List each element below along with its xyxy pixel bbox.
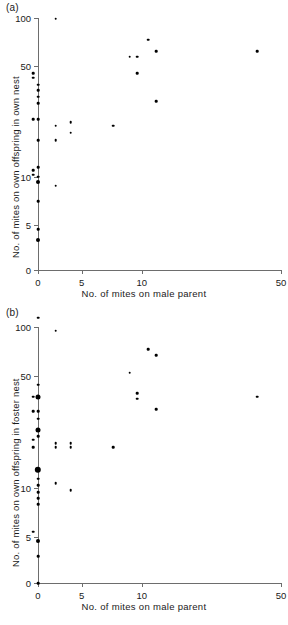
data-point — [147, 348, 150, 351]
panel-b-y-tick-label: 100 — [0, 322, 31, 333]
data-point — [256, 50, 259, 53]
panel-a-y-tick-label: 0 — [0, 265, 31, 276]
data-point — [32, 72, 35, 75]
panel-b-x-tick-label: 0 — [35, 590, 40, 601]
data-point — [54, 184, 57, 187]
panel-a-x-axis-title: No. of mites on male parent — [0, 288, 288, 299]
panel-b-y-tick — [34, 376, 38, 377]
panel-b-y-tick-label: 0 — [0, 578, 31, 589]
panel-a-x-tick — [142, 270, 143, 274]
panel-a-y-tick-label: 5 — [0, 219, 31, 230]
data-point — [36, 180, 40, 184]
data-point — [136, 72, 139, 75]
data-point — [37, 582, 40, 585]
data-point — [128, 55, 131, 58]
data-point — [37, 417, 40, 420]
data-point — [37, 435, 40, 438]
data-point — [37, 410, 40, 413]
panel-a-x-tick — [281, 270, 282, 274]
data-point — [37, 484, 40, 487]
data-point — [155, 408, 158, 411]
data-point — [32, 530, 35, 533]
data-point — [36, 539, 40, 543]
data-point — [37, 383, 40, 386]
data-point — [54, 482, 57, 485]
panel-b-label: (b) — [6, 307, 19, 318]
data-point — [37, 491, 40, 494]
data-point — [69, 121, 72, 124]
data-point — [37, 555, 40, 558]
panel-a-label: (a) — [6, 2, 19, 13]
panel-b-x-axis — [38, 583, 281, 584]
panel-b-y-axis — [38, 327, 39, 583]
data-point — [128, 372, 131, 375]
panel-b-x-tick — [142, 583, 143, 587]
panel-a-plot-area: 051050100051050 — [38, 18, 281, 270]
panel-b: (b) No. of mites on own offspring in fos… — [0, 305, 288, 625]
data-point — [32, 173, 35, 176]
data-point — [54, 17, 57, 20]
data-point — [69, 131, 72, 134]
data-point — [54, 442, 57, 445]
data-point — [136, 55, 139, 58]
panel-b-x-axis-title: No. of mites on male parent — [0, 601, 288, 612]
data-point — [136, 397, 139, 400]
panel-b-y-tick — [34, 488, 38, 489]
data-point — [155, 100, 158, 103]
data-point — [32, 410, 35, 413]
panel-b-x-tick-label: 50 — [276, 590, 287, 601]
data-point — [69, 442, 72, 445]
panel-b-y-tick-label: 10 — [0, 483, 31, 494]
data-point — [37, 95, 40, 98]
data-point — [37, 176, 40, 179]
data-point — [256, 395, 259, 398]
data-point — [36, 427, 41, 432]
data-point — [112, 446, 115, 449]
panel-b-y-tick — [34, 537, 38, 538]
panel-a-y-tick — [34, 18, 38, 19]
data-point — [37, 83, 40, 86]
data-point — [37, 477, 40, 480]
panel-a-x-axis — [38, 270, 281, 271]
data-point — [147, 38, 150, 41]
panel-b-x-tick — [281, 583, 282, 587]
data-point — [37, 503, 40, 506]
data-point — [37, 89, 40, 92]
data-point — [37, 200, 40, 203]
data-point — [37, 228, 40, 231]
panel-b-y-tick — [34, 327, 38, 328]
data-point — [37, 166, 40, 169]
data-point — [32, 118, 35, 121]
panel-b-plot-area: 051050100051050 — [38, 327, 281, 583]
panel-b-x-tick-label: 5 — [79, 590, 84, 601]
panel-a-y-axis — [38, 18, 39, 270]
panel-a-x-tick — [82, 270, 83, 274]
data-point — [36, 238, 40, 242]
data-point — [32, 169, 35, 172]
data-point — [32, 77, 35, 80]
panel-b-x-tick-label: 10 — [136, 590, 147, 601]
data-point — [54, 446, 57, 449]
panel-b-x-tick — [82, 583, 83, 587]
panel-a-y-tick — [34, 225, 38, 226]
data-point — [32, 438, 35, 441]
panel-a-y-tick-label: 50 — [0, 60, 31, 71]
panel-a-x-tick-label: 5 — [79, 277, 84, 288]
data-point — [155, 354, 158, 357]
data-point — [37, 102, 40, 105]
panel-a-y-tick-label: 100 — [0, 13, 31, 24]
data-point — [54, 139, 57, 142]
panel-a-y-tick — [34, 66, 38, 67]
data-point — [155, 50, 158, 53]
panel-b-y-tick-label: 50 — [0, 370, 31, 381]
data-point — [32, 446, 35, 449]
panel-a-x-tick-label: 0 — [35, 277, 40, 288]
data-point — [35, 467, 41, 473]
panel-a-y-tick-label: 10 — [0, 171, 31, 182]
data-point — [37, 497, 40, 500]
data-point — [69, 489, 72, 492]
figure-container: (a) No. of mites on own offspring in own… — [0, 0, 288, 625]
panel-a-x-tick-label: 50 — [276, 277, 287, 288]
panel-a-x-tick — [38, 270, 39, 274]
data-point — [36, 394, 41, 399]
